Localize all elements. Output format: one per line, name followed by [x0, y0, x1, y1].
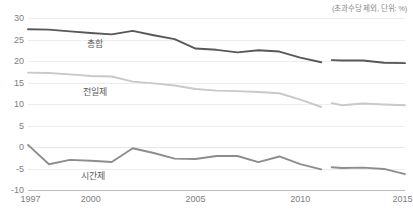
- y-tick-label-30: 30: [14, 13, 24, 23]
- series-line-시간제-seg0: [28, 145, 321, 170]
- y-tick-label-0: 0: [19, 142, 24, 152]
- wage-gap-line-chart: (초과수당 제외, 단위: %) 302520151050-5-10 총합전일제…: [0, 0, 413, 214]
- gridline--10: [28, 190, 405, 191]
- series-line-총합-seg1: [332, 60, 405, 63]
- x-tick-label-2015: 2015: [393, 194, 413, 204]
- plot-area: 302520151050-5-10 총합전일제시간제: [28, 18, 405, 190]
- series-line-시간제-seg1: [332, 167, 405, 174]
- series-line-총합-seg0: [28, 29, 321, 62]
- x-tick-label-1997: 1997: [20, 194, 40, 204]
- series-label-전일제: 전일제: [83, 85, 106, 98]
- x-tick-label-2005: 2005: [186, 194, 206, 204]
- y-tick-label-20: 20: [14, 56, 24, 66]
- series-line-전일제-seg1: [332, 103, 405, 105]
- y-tick-label-15: 15: [14, 78, 24, 88]
- y-tick-label-25: 25: [14, 35, 24, 45]
- chart-unit-note: (초과수당 제외, 단위: %): [332, 2, 407, 13]
- series-label-시간제: 시간제: [81, 168, 104, 181]
- series-line-전일제-seg0: [28, 73, 321, 107]
- y-tick-label--5: -5: [16, 164, 24, 174]
- y-tick-label-10: 10: [14, 99, 24, 109]
- x-tick-label-2010: 2010: [290, 194, 310, 204]
- series-label-총합: 총합: [87, 36, 102, 49]
- x-tick-label-2000: 2000: [81, 194, 101, 204]
- series-lines: [28, 18, 405, 190]
- y-tick-label-5: 5: [19, 121, 24, 131]
- x-axis-labels: 19972000200520102015: [28, 192, 405, 210]
